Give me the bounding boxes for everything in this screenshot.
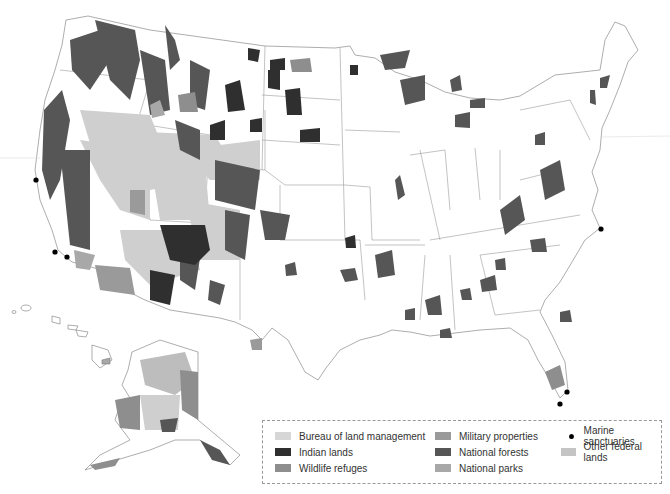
legend-item-indian-lands: Indian lands (275, 445, 353, 459)
legend-item-blm: Bureau of land management (275, 429, 425, 443)
marine-sanctuary-point (52, 249, 57, 254)
legend-item-other-federal: Other federal lands (561, 445, 661, 459)
marine-sanctuary-point (33, 177, 38, 182)
marine-sanctuary-point (64, 254, 69, 259)
legend-item-national-parks: National parks (435, 461, 523, 475)
marine-sanctuary-point (598, 226, 603, 231)
legend-label: National parks (459, 463, 523, 474)
legend-label: Wildlife refuges (299, 463, 367, 474)
wildlife-refuges-swatch (275, 464, 291, 472)
legend-label: National forests (459, 447, 528, 458)
marine-sanctuary-point (557, 401, 562, 406)
marine-sanctuary-point (564, 389, 569, 394)
legend-label: Bureau of land management (299, 431, 425, 442)
legend-item-wildlife-refuges: Wildlife refuges (275, 461, 367, 475)
legend-item-national-forests: National forests (435, 445, 528, 459)
legend-label: Other federal lands (584, 441, 661, 463)
other-federal-swatch (561, 448, 576, 456)
marine-sanctuary-dot-icon (569, 434, 574, 439)
military-swatch (435, 432, 451, 440)
blm-swatch (275, 432, 291, 440)
legend-label: Military properties (459, 431, 538, 442)
national-parks-swatch (435, 464, 451, 472)
national-forests-swatch (435, 448, 451, 456)
legend-item-military: Military properties (435, 429, 538, 443)
legend-label: Indian lands (299, 447, 353, 458)
map-legend: Bureau of land management Indian lands W… (262, 420, 662, 484)
hawaii (12, 305, 112, 368)
indian-lands-swatch (275, 448, 291, 456)
guide-line-right (600, 136, 670, 137)
